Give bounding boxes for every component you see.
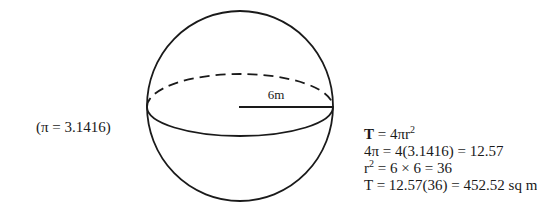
- surface-area-calculation: T = 4πr2 4π = 4(3.1416) = 12.57 r2 = 6 ×…: [364, 126, 537, 194]
- equator-back-dashed: [147, 74, 333, 107]
- sphere-outline: [147, 11, 333, 201]
- formula-line: T = 4πr2: [364, 126, 537, 143]
- equator-front: [147, 107, 333, 136]
- radius-label: 6m: [268, 87, 285, 102]
- r-squared-line: r2 = 6 × 6 = 36: [364, 160, 537, 177]
- result-line: T = 12.57(36) = 452.52 sq m: [364, 177, 537, 194]
- four-pi-line: 4π = 4(3.1416) = 12.57: [364, 143, 537, 160]
